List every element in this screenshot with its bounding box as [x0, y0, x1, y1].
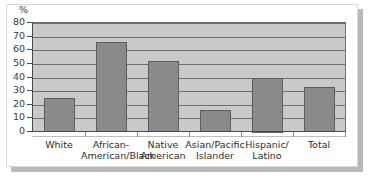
y-axis-tick [27, 63, 32, 64]
x-axis-category-label-line1: White [45, 139, 73, 150]
x-axis-category-label: African-American/Black [81, 139, 141, 161]
bar [96, 42, 127, 132]
x-axis-tick [345, 132, 346, 137]
x-axis-tick [293, 132, 294, 137]
x-axis-category-label: Hispanic/Latino [237, 139, 297, 161]
gridline [33, 37, 345, 38]
x-axis-category-label: Asian/PacificIslander [185, 139, 245, 161]
bar [304, 87, 335, 132]
y-axis-tick [27, 22, 32, 23]
gridline [33, 91, 345, 92]
bar [44, 98, 75, 132]
x-axis-category-label: White [29, 139, 89, 150]
y-axis-tick-label: 40 [3, 72, 25, 82]
y-axis-tick [27, 36, 32, 37]
y-axis-tick-label: 10 [3, 112, 25, 122]
x-axis-category-label-line2: Latino [237, 150, 297, 161]
x-axis-tick [137, 132, 138, 137]
y-axis-tick-label: 50 [3, 58, 25, 68]
gridline [33, 50, 345, 51]
x-axis-category-label: Total [289, 139, 349, 150]
x-axis-category-label: NativeAmerican [133, 139, 193, 161]
plot-area [33, 22, 346, 132]
gridlines [33, 23, 345, 132]
y-axis-tick [27, 49, 32, 50]
x-axis-category-label-line1: Asian/Pacific [185, 139, 244, 150]
gridline [33, 118, 345, 119]
x-axis-category-label-line2: American [133, 150, 193, 161]
y-axis-tick [27, 117, 32, 118]
x-axis-category-label-line1: Hispanic/ [245, 139, 289, 150]
gridline [33, 78, 345, 79]
y-axis-line [32, 22, 33, 132]
y-axis-tick [27, 90, 32, 91]
bar [252, 78, 283, 133]
figure-root: % 01020304050607080 WhiteAfrican-America… [0, 0, 369, 187]
y-axis-tick [27, 104, 32, 105]
x-axis-category-label-line1: Native [148, 139, 179, 150]
x-axis-category-label-line1: Total [308, 139, 330, 150]
x-axis-tick [189, 132, 190, 137]
x-axis-tick [241, 132, 242, 137]
y-axis-tick-label: 30 [3, 85, 25, 95]
x-axis-category-label-line2: American/Black [81, 150, 141, 161]
gridline [33, 105, 345, 106]
x-axis-category-label-line2: Islander [185, 150, 245, 161]
y-axis-tick-label: 20 [3, 99, 25, 109]
gridline [33, 23, 345, 24]
x-axis-category-label-line1: African- [93, 139, 130, 150]
y-axis-tick [27, 77, 32, 78]
x-axis-tick [85, 132, 86, 137]
bar [200, 110, 231, 132]
y-axis-tick-labels: 01020304050607080 [0, 0, 25, 187]
y-axis-tick-label: 60 [3, 44, 25, 54]
y-axis-tick-label: 70 [3, 31, 25, 41]
y-axis-tick-label: 0 [3, 126, 25, 136]
bar [148, 61, 179, 132]
y-axis-tick-label: 80 [3, 17, 25, 27]
gridline [33, 64, 345, 65]
